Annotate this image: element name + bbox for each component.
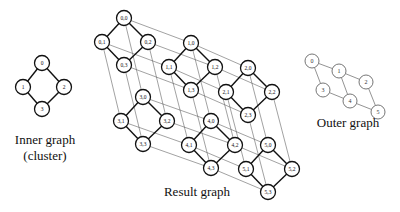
result-outer-edge	[191, 43, 211, 121]
result-node-label: 0,2	[145, 39, 152, 45]
result-graph-caption: Result graph	[164, 184, 231, 199]
result-outer-edge	[226, 92, 246, 169]
result-outer-edge	[272, 92, 292, 169]
result-node-label: 4,0	[208, 118, 215, 124]
result-node-label: 1,0	[188, 40, 195, 46]
outer-node-label: 1	[338, 68, 341, 74]
result-node-label: 4,2	[232, 142, 239, 148]
inner-graph-caption: Inner graph	[15, 132, 76, 147]
result-node-label: 5,2	[289, 166, 296, 172]
result-node-label: 3,2	[164, 118, 171, 124]
result-node-label: 4,1	[186, 142, 193, 148]
result-outer-edge	[248, 68, 268, 145]
inner-node-label: 0	[41, 60, 44, 66]
inner-graph: 0123	[16, 56, 72, 117]
result-node-label: 1,3	[188, 87, 195, 93]
result-node-label: 5,1	[243, 166, 250, 172]
result-node-label: 3,0	[140, 94, 147, 100]
result-outer-edge	[143, 97, 211, 121]
inner-node-label: 2	[63, 84, 66, 90]
result-outer-edge	[167, 121, 235, 145]
result-node-label: 2,3	[245, 112, 252, 118]
inner-graph-caption-sub: (cluster)	[23, 148, 66, 163]
outer-graph: 012345	[305, 54, 385, 119]
result-outer-edge	[169, 67, 189, 145]
outer-node-label: 0	[311, 58, 314, 64]
result-outer-edge	[148, 42, 215, 67]
result-node-label: 3,1	[118, 118, 125, 124]
result-node-label: 5,0	[265, 142, 272, 148]
result-outer-edge	[148, 42, 167, 121]
result-node-label: 3,3	[140, 141, 147, 147]
graph-product-diagram: 0123 0,00,10,20,31,01,11,21,32,02,12,22,…	[0, 0, 400, 212]
result-graph-nodes: 0,00,10,20,31,01,11,21,32,02,12,22,33,03…	[95, 11, 300, 200]
inner-node-label: 3	[41, 106, 44, 112]
outer-node-label: 4	[349, 98, 352, 104]
result-node-label: 1,1	[166, 64, 173, 70]
inner-node-label: 1	[22, 84, 25, 90]
outer-node-label: 2	[365, 79, 368, 85]
result-outer-edge	[124, 18, 191, 43]
result-node-label: 2,2	[269, 89, 276, 95]
result-node-label: 0,1	[99, 39, 106, 45]
result-node-label: 4,3	[208, 165, 215, 171]
result-node-label: 0,0	[121, 15, 128, 21]
result-outer-edge	[102, 42, 121, 121]
result-outer-edge	[124, 65, 191, 90]
result-node-label: 0,3	[121, 62, 128, 68]
result-node-label: 1,2	[212, 64, 219, 70]
result-outer-edge	[248, 115, 268, 192]
outer-node-label: 3	[322, 87, 325, 93]
result-node-label: 2,0	[245, 65, 252, 71]
outer-graph-caption: Outer graph	[317, 115, 380, 130]
result-outer-edge	[191, 90, 211, 168]
result-node-label: 5,3	[265, 189, 272, 195]
result-node-label: 2,1	[223, 89, 230, 95]
result-outer-edge	[215, 67, 235, 145]
result-outer-edge	[143, 144, 211, 168]
